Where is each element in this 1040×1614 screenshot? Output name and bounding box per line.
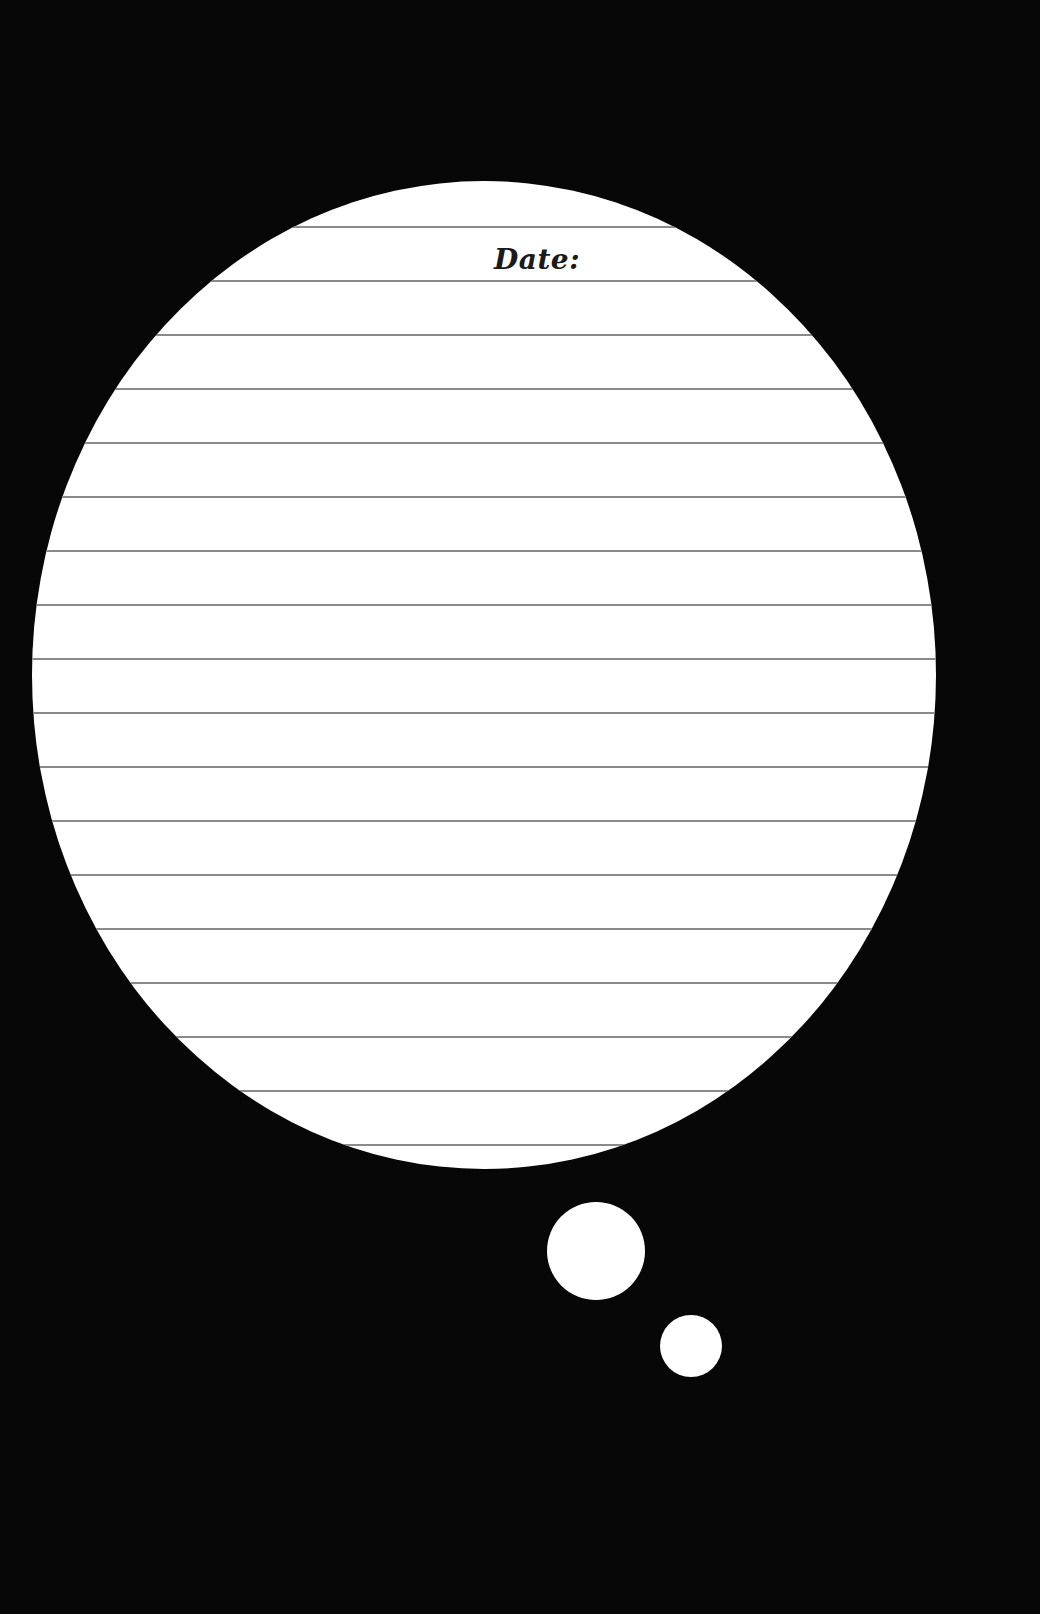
thought-bubble-main (32, 181, 936, 1169)
thought-bubble-small-dot (660, 1315, 722, 1377)
thought-bubble-large-dot (547, 1202, 645, 1300)
journal-page: Date: (0, 0, 1040, 1614)
date-label: Date: (494, 242, 580, 278)
